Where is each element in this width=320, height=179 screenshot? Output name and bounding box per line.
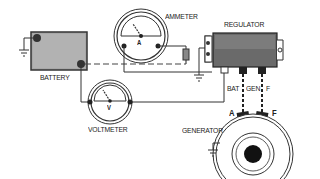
generator (213, 111, 293, 179)
regulator (205, 33, 283, 74)
shunt-resistor (183, 49, 189, 60)
voltmeter (88, 80, 133, 124)
regulator-terminal-f: F (266, 84, 270, 93)
battery (31, 32, 87, 70)
ammeter-dial-letter: A (137, 39, 141, 46)
regulator-label: REGULATOR (224, 20, 264, 29)
regulator-terminal-bat: BAT (227, 84, 239, 93)
battery-label: BATTERY (40, 73, 70, 82)
regulator-ground-icon (194, 48, 205, 81)
generator-label: GENERATOR (182, 126, 223, 135)
ammeter-label: AMMETER (165, 12, 198, 21)
regulator-terminal-gen: GEN (246, 84, 260, 93)
ammeter (114, 9, 168, 63)
voltmeter-label: VOLTMETER (88, 125, 128, 134)
generator-terminal-a: A (229, 108, 234, 118)
voltmeter-dial-letter: V (107, 104, 111, 111)
generator-terminal-f: F (272, 108, 277, 118)
